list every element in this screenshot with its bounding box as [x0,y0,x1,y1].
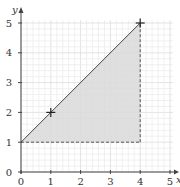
y-tick-label: 4 [6,47,12,58]
x-tick-label: 1 [48,176,54,187]
x-tick-label: 5 [167,176,173,187]
x-tick-label: 0 [18,176,24,187]
y-axis-arrow-icon [19,7,24,13]
y-tick-label: 0 [6,167,12,178]
y-axis-label: y [11,4,18,15]
y-tick-label: 2 [6,107,12,118]
y-tick-label: 5 [6,18,12,29]
x-tick-label: 2 [77,176,83,187]
x-tick-label: 3 [107,176,113,187]
y-tick-label: 1 [6,137,12,148]
x-axis-label: x [176,174,180,185]
x-tick-label: 4 [137,176,143,187]
chart: x y 012345012345 [0,0,180,187]
y-tick-label: 3 [6,77,12,88]
